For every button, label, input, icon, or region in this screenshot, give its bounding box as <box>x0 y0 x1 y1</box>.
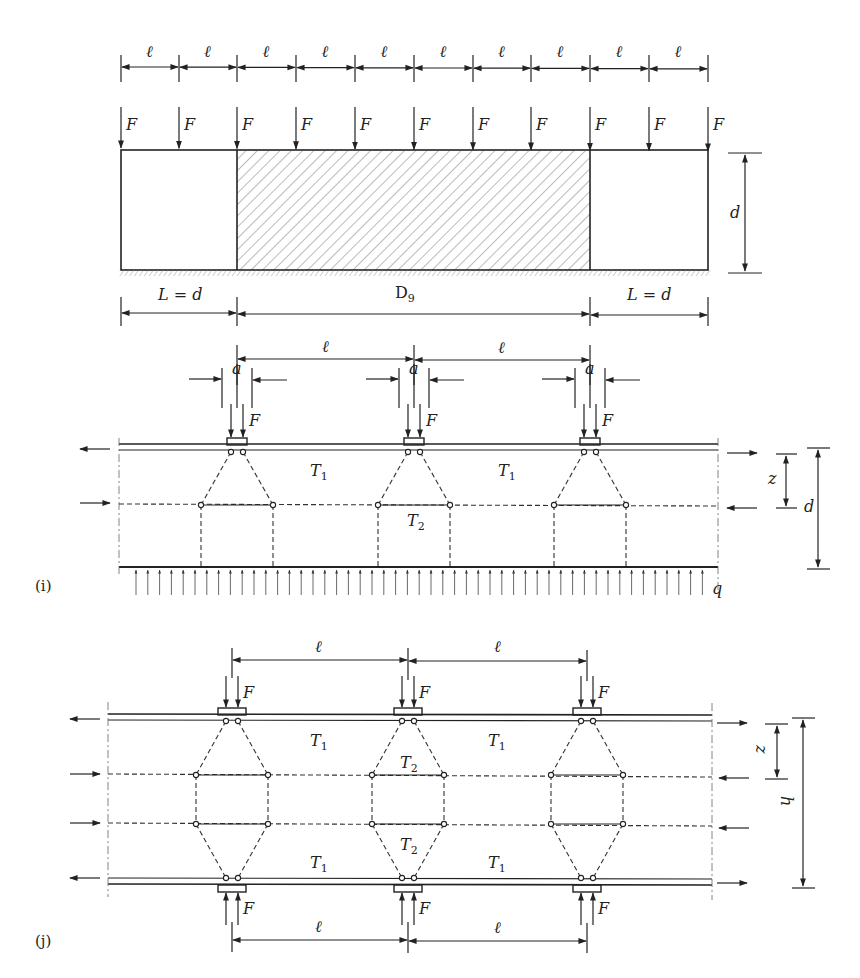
loading-plates: FaFaFa <box>189 359 640 445</box>
left-span-label: L = d <box>157 285 202 304</box>
force-arrows: FFFFFFFFFFF <box>121 107 725 151</box>
tie-outer-label-1: T1 <box>310 731 328 753</box>
lever-arm-label: z <box>767 469 777 488</box>
spacing-label: ℓ <box>557 42 564 61</box>
force-label: F <box>125 115 138 134</box>
bottom-chord-lower <box>108 884 712 885</box>
spacing-label-1: ℓ <box>322 337 329 356</box>
force-label: F <box>597 683 610 702</box>
node-spacing-dimension-top: ℓ ℓ <box>232 637 587 681</box>
depth-label-i: d <box>804 497 814 516</box>
spacing-label: ℓ <box>498 42 505 61</box>
depth-dimension-i: d <box>804 448 830 569</box>
force-label: F <box>248 411 261 430</box>
top-chord-upper <box>108 714 712 715</box>
ground-hatch <box>119 270 711 276</box>
force-label: F <box>359 115 372 134</box>
lever-arm-label-j: z <box>752 744 771 754</box>
depth-dimension: d <box>728 153 762 273</box>
spacing-label-bottom-2: ℓ <box>494 918 501 937</box>
strut-and-tie-figure: ℓℓℓℓℓℓℓℓℓℓ FFFFFFFFFFF d L = d D9 L = d <box>0 0 860 978</box>
distributed-load-arrows <box>136 570 702 595</box>
force-label: F <box>653 115 666 134</box>
right-span-label: L = d <box>626 285 671 304</box>
tie-top-label-2: T1 <box>498 461 516 483</box>
tie-outer-label-2: T1 <box>488 731 506 753</box>
lever-arm-dimension-j: z <box>752 724 788 779</box>
top-chord-lower <box>108 720 712 721</box>
spacing-label: ℓ <box>381 42 388 61</box>
truss-members <box>193 718 625 880</box>
force-label: F <box>477 115 490 134</box>
force-label: F <box>241 115 254 134</box>
force-label: F <box>418 115 431 134</box>
spacing-label: ℓ <box>675 42 682 61</box>
truss-members <box>198 449 628 567</box>
spacing-dimensions: ℓℓℓℓℓℓℓℓℓℓ <box>121 42 708 82</box>
force-label: F <box>418 683 431 702</box>
lever-arm-dimension: z <box>767 454 797 508</box>
plate-width-label: a <box>585 359 595 378</box>
tie-mid-label: T2 <box>407 511 425 533</box>
force-label: F <box>594 115 607 134</box>
bottom-chord-upper <box>108 878 712 879</box>
plate-width-label: a <box>409 359 419 378</box>
middle-span-label: D9 <box>395 283 415 305</box>
spacing-label-top-1: ℓ <box>315 637 322 656</box>
force-label: F <box>242 899 255 918</box>
tie-inner-label-1: T2 <box>400 753 418 775</box>
tie-top-label-1: T1 <box>310 461 328 483</box>
force-label: F <box>535 115 548 134</box>
spacing-label: ℓ <box>322 42 329 61</box>
spacing-label-bottom-1: ℓ <box>315 917 322 936</box>
spacing-label: ℓ <box>146 42 153 61</box>
tie-outer-label-4: T1 <box>488 853 506 875</box>
panel-i: ℓ ℓ FaFaFa T1 T1 T2 q z <box>35 337 830 598</box>
distributed-load-label: q <box>712 579 722 598</box>
hatched-region <box>237 151 590 270</box>
force-label: F <box>597 899 610 918</box>
panel-j-label: (j) <box>35 932 51 950</box>
spacing-label: ℓ <box>440 42 447 61</box>
spacing-label-top-2: ℓ <box>494 637 501 656</box>
height-label: h <box>777 796 796 806</box>
span-dimensions: L = d D9 L = d <box>121 283 708 326</box>
force-label: F <box>712 115 725 134</box>
force-label: F <box>300 115 313 134</box>
top-diagram: ℓℓℓℓℓℓℓℓℓℓ FFFFFFFFFFF d L = d D9 L = d <box>119 42 762 326</box>
force-label: F <box>418 899 431 918</box>
plate-width-label: a <box>232 359 242 378</box>
spacing-label: ℓ <box>616 42 623 61</box>
panel-j: ℓ ℓ ℓ ℓ FFFFFF T1 T1 T2 <box>35 637 815 953</box>
node-spacing-dimension-bottom: ℓ ℓ <box>232 917 587 953</box>
force-label: F <box>425 411 438 430</box>
tie-inner-label-2: T2 <box>400 835 418 857</box>
force-label: F <box>183 115 196 134</box>
depth-label: d <box>730 203 740 222</box>
height-dimension: h <box>777 718 815 888</box>
force-label: F <box>601 411 614 430</box>
panel-i-label: (i) <box>35 577 52 595</box>
spacing-label: ℓ <box>204 42 211 61</box>
spacing-label: ℓ <box>263 42 270 61</box>
tie-outer-label-3: T1 <box>310 853 328 875</box>
force-label: F <box>242 683 255 702</box>
spacing-label-2: ℓ <box>498 338 505 357</box>
